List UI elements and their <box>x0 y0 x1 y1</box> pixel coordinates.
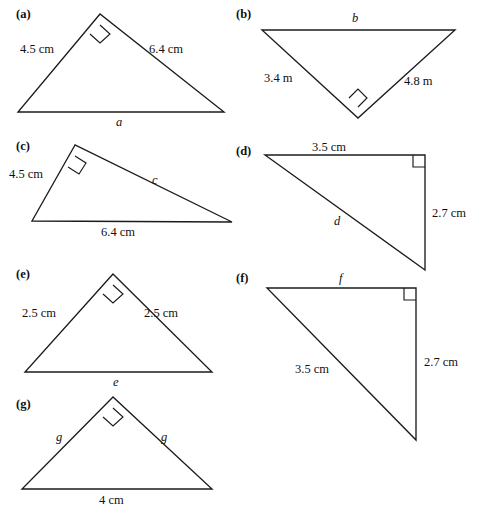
triangle-outline-d <box>265 155 425 270</box>
side-label-top-b: b <box>352 12 358 25</box>
side-label-right-e: 2.5 cm <box>144 307 178 320</box>
right-angle-icon-b <box>349 89 367 107</box>
side-label-left-a: 4.5 cm <box>20 43 54 56</box>
triangle-outline-g <box>22 397 212 489</box>
triangle-outline-f <box>267 288 416 440</box>
side-label-right-d: 2.7 cm <box>432 207 466 220</box>
right-angle-icon-g <box>103 408 123 426</box>
worksheet-page: (a)4.5 cm6.4 cma(b)b3.4 m4.8 m(c)4.5 cmc… <box>0 0 490 518</box>
side-label-top-f: f <box>339 272 342 285</box>
right-angle-icon-d <box>413 155 425 167</box>
side-label-right-b: 4.8 m <box>404 75 432 88</box>
part-label-d: (d) <box>236 145 251 158</box>
side-label-base-g: 4 cm <box>99 494 124 507</box>
side-label-left-g: g <box>56 431 62 444</box>
side-label-left-e: 2.5 cm <box>22 307 56 320</box>
side-label-hypotenuse-c: c <box>152 174 158 187</box>
side-label-base-a: a <box>116 116 122 129</box>
side-label-base-c: 6.4 cm <box>101 226 135 239</box>
part-label-c: (c) <box>16 140 30 153</box>
part-label-b: (b) <box>236 8 251 21</box>
triangle-outline-a <box>18 14 224 112</box>
side-label-hypotenuse-f: 3.5 cm <box>295 363 329 376</box>
side-label-hypotenuse-d: d <box>334 215 340 228</box>
part-label-g: (g) <box>16 398 31 411</box>
right-angle-icon-c <box>68 156 86 174</box>
side-label-left-c: 4.5 cm <box>9 168 43 181</box>
side-label-right-a: 6.4 cm <box>149 43 183 56</box>
side-label-top-d: 3.5 cm <box>312 141 346 154</box>
right-angle-icon-e <box>103 285 123 303</box>
part-label-a: (a) <box>16 8 31 21</box>
triangle-outline-e <box>25 274 212 372</box>
side-label-base-e: e <box>113 376 119 389</box>
side-label-right-g: g <box>161 431 167 444</box>
right-angle-icon-f <box>404 288 416 300</box>
part-label-e: (e) <box>16 268 30 281</box>
triangle-outline-c <box>32 145 232 222</box>
right-angle-icon-a <box>90 25 110 43</box>
side-label-right-f: 2.7 cm <box>424 356 458 369</box>
side-label-left-b: 3.4 m <box>264 72 292 85</box>
part-label-f: (f) <box>236 272 249 285</box>
